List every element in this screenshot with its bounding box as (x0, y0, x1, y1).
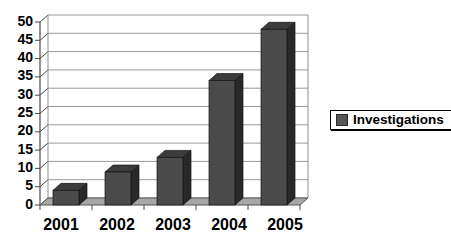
y-axis-label: 50 (17, 13, 33, 29)
bar-2004 (209, 81, 235, 205)
bar-2001 (53, 190, 79, 205)
y-axis-label: 35 (17, 67, 33, 83)
y-axis-label: 15 (17, 141, 33, 157)
y-axis-label: 40 (17, 49, 33, 65)
y-axis-label: 5 (25, 177, 33, 193)
legend-label: Investigations (353, 113, 444, 127)
bar-2002 (105, 172, 131, 205)
y-axis-label: 45 (17, 31, 33, 47)
y-axis-label: 30 (17, 86, 33, 102)
investigations-bar-chart: 0510152025303540455020012002200320042005… (0, 0, 451, 238)
y-axis-label: 10 (17, 159, 33, 175)
grid-depth-connector (40, 70, 48, 77)
grid-depth-connector (40, 33, 48, 40)
y-axis-label: 20 (17, 122, 33, 138)
bar-2003 (157, 157, 183, 205)
grid-depth-connector (40, 125, 48, 132)
bar-2005 (261, 29, 287, 205)
grid-depth-connector (40, 15, 48, 22)
grid-depth-connector (40, 143, 48, 150)
grid-depth-connector (40, 52, 48, 59)
grid-depth-connector (40, 180, 48, 187)
legend: Investigations (330, 110, 451, 130)
bar-side-face-2002 (131, 165, 139, 205)
x-axis-label: 2002 (99, 216, 135, 233)
grid-depth-connector (40, 88, 48, 95)
y-axis-label: 0 (25, 196, 33, 212)
bar-side-face-2003 (183, 150, 191, 205)
grid-depth-connector (40, 161, 48, 168)
x-axis-label: 2001 (43, 216, 79, 233)
bar-side-face-2005 (287, 22, 295, 205)
legend-series-swatch-icon (336, 114, 348, 126)
x-axis-label: 2003 (155, 216, 191, 233)
bar-side-face-2004 (235, 74, 243, 205)
y-axis-label: 25 (17, 104, 33, 120)
grid-depth-connector (40, 107, 48, 114)
x-axis-label: 2004 (211, 216, 247, 233)
x-axis-label: 2005 (267, 216, 303, 233)
